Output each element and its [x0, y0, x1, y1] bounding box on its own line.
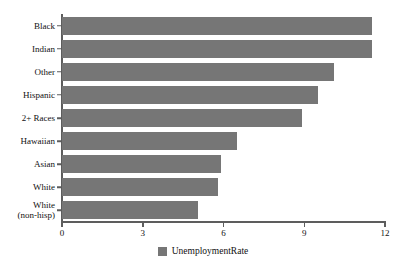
x-axis-tick-label: 9	[302, 228, 307, 238]
bar-row: Hawaiian	[62, 132, 385, 150]
category-label: Hawaiian	[21, 136, 55, 146]
plot-area: BlackIndianOtherHispanic2+ RacesHawaiian…	[62, 14, 385, 222]
bar-unemploymentrate	[62, 63, 334, 81]
bar-unemploymentrate	[62, 109, 302, 127]
bar-row: Black	[62, 17, 385, 35]
x-axis-tick-label: 6	[221, 228, 226, 238]
category-label: White	[33, 182, 55, 192]
bar-unemploymentrate	[62, 17, 372, 35]
category-label: Other	[35, 67, 56, 77]
bar-unemploymentrate	[62, 201, 198, 219]
category-label: 2+ Races	[22, 113, 55, 123]
bar-unemploymentrate	[62, 86, 318, 104]
chart-legend: UnemploymentRate	[0, 246, 406, 256]
x-axis-tick	[223, 222, 225, 227]
bar-row: Other	[62, 63, 385, 81]
category-label: Asian	[34, 159, 55, 169]
x-axis-tick	[384, 222, 386, 227]
bar-row: Indian	[62, 40, 385, 58]
legend-swatch-unemploymentrate	[158, 247, 167, 256]
x-axis-tick	[61, 222, 63, 227]
x-axis-tick	[304, 222, 306, 227]
x-axis-tick-label: 12	[381, 228, 390, 238]
bar-row: 2+ Races	[62, 109, 385, 127]
bar-row: White	[62, 178, 385, 196]
category-label: Black	[34, 21, 55, 31]
category-label: Hispanic	[23, 90, 55, 100]
legend-label-unemploymentrate: UnemploymentRate	[172, 246, 249, 256]
category-label: White(non-hisp)	[0, 200, 55, 220]
bar-row: White(non-hisp)	[62, 201, 385, 219]
bar-chart: BlackIndianOtherHispanic2+ RacesHawaiian…	[0, 0, 406, 275]
bar-unemploymentrate	[62, 178, 218, 196]
category-label: Indian	[32, 44, 55, 54]
bar-unemploymentrate	[62, 132, 237, 150]
bar-row: Asian	[62, 155, 385, 173]
x-axis-tick	[142, 222, 144, 227]
bar-row: Hispanic	[62, 86, 385, 104]
bar-unemploymentrate	[62, 40, 372, 58]
bar-unemploymentrate	[62, 155, 221, 173]
x-axis-tick-label: 0	[60, 228, 65, 238]
x-axis-tick-label: 3	[141, 228, 146, 238]
